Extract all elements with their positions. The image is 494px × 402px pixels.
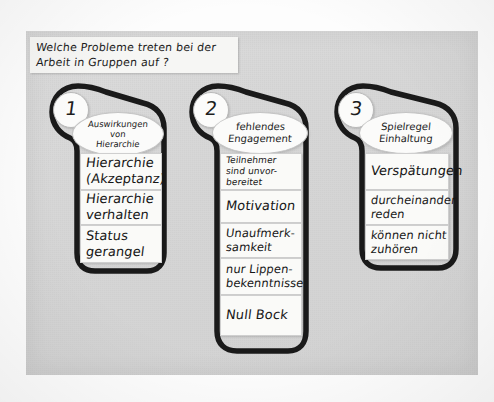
cluster-heading-3-line-1: Spielregel — [380, 121, 431, 133]
cluster-heading-3-line-2: Einhaltung — [379, 133, 434, 145]
cluster-column-2: 2 fehlendes Engagement Teilnehmer sind u… — [184, 79, 314, 359]
card-text-line: bekenntnisse — [225, 276, 298, 290]
photograph-of-flipchart: Welche Probleme treten bei der Arbeit in… — [0, 0, 494, 402]
card-text-line: durcheinander — [370, 193, 445, 207]
card-text-line: können nicht — [370, 228, 445, 242]
card-text-line: zuhören — [370, 242, 445, 256]
cluster-heading-oval-3: Spielregel Einhaltung — [359, 112, 453, 154]
flipchart-poster: Welche Probleme treten bei der Arbeit in… — [26, 31, 478, 375]
cluster-number-1-label: 1 — [63, 99, 78, 121]
card-text-line: bereitet — [225, 177, 297, 188]
card-text-line: Motivation — [225, 198, 298, 214]
card-text-line: Hierarchie — [85, 155, 158, 171]
card-text-line: sind unvor- — [225, 166, 297, 177]
poster-title-card: Welche Probleme treten bei der Arbeit in… — [30, 37, 238, 73]
poster-title-line-2: Arbeit in Gruppen auf ? — [35, 55, 234, 70]
card-text-line: Status — [85, 228, 158, 244]
sticky-card: Status gerangel — [80, 225, 162, 263]
sticky-card: durcheinander reden — [365, 190, 449, 225]
card-text-line: verhalten — [85, 207, 158, 223]
cluster-heading-1-line-2: von — [110, 129, 127, 139]
sticky-card: Null Bock — [220, 295, 302, 336]
card-text-line: nur Lippen- — [225, 262, 298, 276]
card-text-line: reden — [370, 207, 445, 221]
cluster-heading-1-line-3: Hierarchie — [96, 139, 141, 149]
sticky-card: Hierarchie (Akzeptanz) — [80, 153, 162, 190]
sticky-card: Verspätungen — [365, 153, 449, 190]
cluster-heading-2-line-1: fehlendes — [235, 121, 285, 133]
cluster-number-2-label: 2 — [203, 99, 218, 121]
sticky-card: Unaufmerk- samkeit — [220, 223, 302, 258]
card-text-line: samkeit — [225, 240, 298, 254]
cluster-column-3: 3 Spielregel Einhaltung Verspätungen dur… — [329, 79, 464, 279]
card-text-line: Teilnehmer — [225, 155, 297, 166]
sticky-card: können nicht zuhören — [365, 225, 449, 260]
card-text-line: Verspätungen — [370, 163, 445, 179]
cluster-heading-oval-2: fehlendes Engagement — [212, 112, 308, 154]
card-text-line: Null Bock — [225, 307, 298, 323]
cluster-column-1: 1 Auswirkungen von Hierarchie Hierarchie… — [44, 79, 169, 279]
card-text-line: (Akzeptanz) — [85, 171, 158, 187]
cluster-heading-1-line-1: Auswirkungen — [88, 119, 149, 129]
sticky-card: Teilnehmer sind unvor- bereitet — [220, 153, 302, 190]
cluster-heading-2-line-2: Engagement — [227, 133, 292, 145]
poster-title-line-1: Welche Probleme treten bei der — [35, 40, 234, 55]
card-text-line: Hierarchie — [85, 191, 158, 207]
sticky-card: nur Lippen- bekenntnisse — [220, 258, 302, 295]
cluster-heading-oval-1: Auswirkungen von Hierarchie — [72, 112, 164, 156]
sticky-card: Hierarchie verhalten — [80, 190, 162, 225]
card-text-line: gerangel — [85, 244, 158, 260]
card-text-line: Unaufmerk- — [225, 226, 298, 240]
cluster-number-3-label: 3 — [348, 99, 363, 121]
sticky-card: Motivation — [220, 190, 302, 223]
